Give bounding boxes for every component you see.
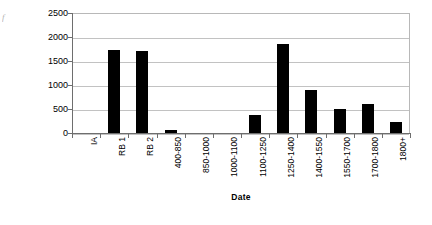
y-tick-mark	[68, 109, 72, 110]
x-tick-mark	[213, 134, 214, 138]
x-tick-label: RB 1	[118, 137, 127, 156]
x-tick-label: 1100-1250	[259, 137, 268, 177]
x-tick-label: RB 2	[146, 137, 155, 156]
x-tick-label: 1250-1400	[287, 137, 296, 178]
x-tick-label: 1800+	[399, 137, 408, 161]
x-tick-mark	[128, 134, 129, 138]
x-tick-mark	[326, 134, 327, 138]
x-axis-title: Date	[72, 192, 410, 202]
x-tick-label: 850-1000	[202, 137, 211, 173]
x-tick-mark	[157, 134, 158, 138]
x-tick-mark	[410, 134, 411, 138]
y-tick-mark	[68, 13, 72, 14]
x-tick-mark	[100, 134, 101, 138]
x-tick-label: 1000-1100	[230, 137, 239, 177]
x-tick-label: IA	[90, 137, 99, 145]
x-tick-mark	[354, 134, 355, 138]
y-tick-mark	[68, 37, 72, 38]
x-tick-mark	[185, 134, 186, 138]
y-tick-mark	[68, 61, 72, 62]
x-tick-mark	[297, 134, 298, 138]
x-tick-mark	[241, 134, 242, 138]
x-tick-mark	[72, 134, 73, 138]
x-tick-label: 1400-1550	[315, 137, 324, 178]
x-tick-mark	[269, 134, 270, 138]
x-tick-mark	[382, 134, 383, 138]
y-tick-mark	[68, 85, 72, 86]
x-tick-label: 400-850	[174, 137, 183, 168]
x-tick-label: 1550-1700	[343, 137, 352, 178]
bar-chart-figure: f No. of Sherds 05001000150020002500 IAR…	[0, 0, 432, 225]
x-tick-label: 1700-1800	[371, 137, 380, 178]
